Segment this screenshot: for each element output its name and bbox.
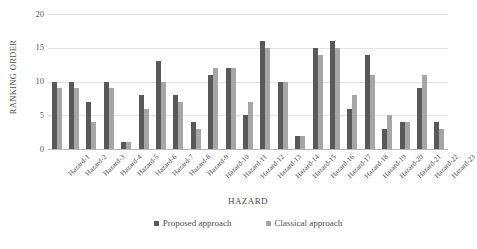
y-axis-tick-label: 0 [24,145,44,154]
bar-group [309,14,326,149]
bar-group [65,14,82,149]
bar [283,82,288,150]
axis-baseline [48,149,448,150]
bar-group [413,14,430,149]
bar [318,55,323,150]
bar-group [396,14,413,149]
bar-group [431,14,448,149]
bar-group [257,14,274,149]
bar [422,75,427,149]
bar-group [222,14,239,149]
y-axis-tick-label: 10 [24,77,44,86]
x-axis-tick-labels: Hazard-1Hazard-2Hazard-3Hazard-4Hazard-5… [48,151,448,195]
bar [126,142,131,149]
y-axis-tick-label: 20 [24,10,44,19]
bar-group [344,14,361,149]
bar-group [100,14,117,149]
bar [178,102,183,149]
bar [213,68,218,149]
bar-group [205,14,222,149]
bar-group [187,14,204,149]
bar-group [326,14,343,149]
bar-group [152,14,169,149]
y-axis-tick-labels: 05101520 [24,0,44,249]
bar [91,122,96,149]
x-axis-title: HAZARD [48,196,448,206]
y-axis-tick-label: 5 [24,111,44,120]
plot-area [48,14,448,150]
legend-swatch-icon [154,221,159,226]
bar [196,129,201,149]
bar [144,109,149,150]
legend-item[interactable]: Classical approach [266,218,343,228]
legend-label: Proposed approach [163,218,232,228]
legend-label: Classical approach [275,218,343,228]
bar-group [239,14,256,149]
bar-group [361,14,378,149]
bar [265,48,270,149]
bar-group [378,14,395,149]
bar-group [118,14,135,149]
bar [57,88,62,149]
bar-group [170,14,187,149]
bar [387,115,392,149]
bar-group [135,14,152,149]
y-axis-tick-label: 15 [24,43,44,52]
bar [335,48,340,149]
bar [109,88,114,149]
bar [405,122,410,149]
bar-group [291,14,308,149]
bar [370,75,375,149]
legend-item[interactable]: Proposed approach [154,218,232,228]
bar-group [48,14,65,149]
legend-swatch-icon [266,221,271,226]
bar [248,102,253,149]
bar [439,129,444,149]
bar [161,82,166,150]
bar [231,68,236,149]
y-axis-title: RANKING ORDER [6,2,20,152]
bar [352,95,357,149]
bar-group [83,14,100,149]
bar-group [274,14,291,149]
bar-groups [48,14,448,149]
bar [74,88,79,149]
bar [300,136,305,150]
chart-legend: Proposed approachClassical approach [48,218,448,228]
